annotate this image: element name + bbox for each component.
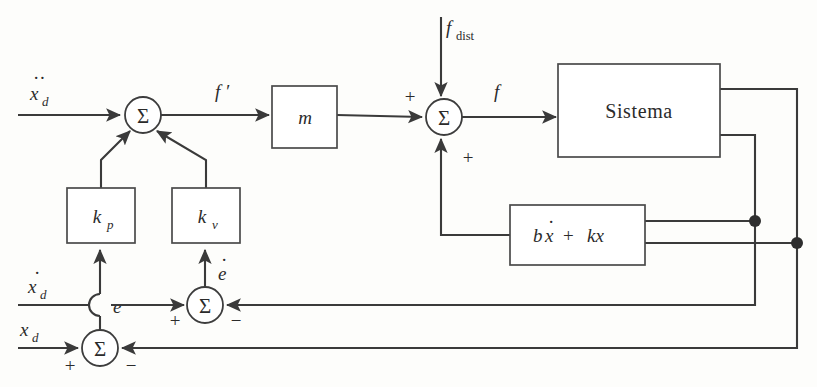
wire-kv-to-sum-top: [157, 131, 206, 188]
input-label-xd-dot: x · d: [27, 262, 47, 302]
svg-text:kx: kx: [587, 225, 604, 246]
wire-hop-arc: [89, 294, 100, 316]
diagram-svg: x ·· d x · d x d f dist f ′ f e e ·: [0, 0, 817, 387]
xd-dot-accent: ·: [34, 262, 40, 283]
xd-dot-subscript: d: [40, 287, 47, 302]
block-m[interactable]: m: [272, 86, 337, 148]
junction-dot-velocity-bus: [749, 215, 761, 227]
sum-force-symbol: Σ: [438, 106, 450, 130]
e-dot-accent: ·: [221, 249, 227, 270]
xd-subscript: d: [32, 330, 39, 345]
signal-label-e: e: [113, 296, 121, 317]
signal-label-f: f: [494, 81, 502, 102]
wire-feedback-to-sum-force: [441, 139, 510, 235]
sum-velocity-symbol: Σ: [199, 294, 211, 318]
input-label-fdist: f dist: [446, 17, 475, 43]
fdist-subscript: dist: [456, 29, 475, 43]
sum-velocity-sign-minus: −: [231, 310, 242, 331]
wire-m-to-sum-force: [337, 115, 422, 117]
xdd-subscript: d: [42, 94, 49, 109]
block-diagram-canvas: x ·· d x · d x d f dist f ′ f e e ·: [0, 0, 817, 387]
sum-junction-force[interactable]: Σ + +: [405, 86, 474, 168]
sum-top-symbol: Σ: [137, 104, 149, 128]
block-kp[interactable]: k p: [67, 188, 135, 243]
signal-label-e-dot: e ·: [218, 249, 227, 284]
junction-dot-position-bus: [791, 237, 803, 249]
sum-position-sign-minus: −: [126, 355, 137, 376]
block-kv[interactable]: k v: [172, 188, 240, 243]
fdist-label: f: [446, 17, 454, 38]
input-label-xd: x d: [19, 319, 39, 345]
sum-force-sign-left: +: [405, 86, 416, 107]
wire-kp-to-sum-top: [101, 131, 130, 188]
xd-label: x: [19, 319, 29, 340]
block-m-label: m: [298, 107, 312, 128]
sum-velocity-sign-plus: +: [170, 310, 181, 331]
svg-text:b: b: [533, 225, 543, 246]
sum-junction-velocity-error[interactable]: Σ + −: [170, 287, 242, 331]
block-feedback[interactable]: b x · + kx: [510, 205, 645, 265]
signal-label-f-prime: f ′: [215, 81, 230, 102]
svg-text:+: +: [563, 225, 574, 246]
sum-position-sign-plus: +: [65, 355, 76, 376]
sum-force-sign-bottom: +: [463, 147, 474, 168]
block-sistema-label: Sistema: [605, 100, 673, 122]
xdd-accent: ··: [33, 67, 46, 88]
svg-text:·: ·: [548, 211, 554, 232]
block-kv-label: k: [198, 206, 207, 227]
block-kv-subscript: v: [212, 217, 218, 232]
block-sistema[interactable]: Sistema: [558, 64, 720, 157]
input-label-xddot-dot: x ·· d: [29, 67, 49, 109]
block-kp-subscript: p: [106, 217, 114, 232]
f-prime-mark: ′: [225, 81, 230, 102]
sum-position-symbol: Σ: [94, 337, 106, 361]
sum-junction-position-error[interactable]: Σ + −: [65, 330, 137, 376]
f-prime-label: f: [215, 81, 223, 102]
block-kp-label: k: [93, 206, 102, 227]
sum-junction-top[interactable]: Σ: [125, 97, 161, 133]
